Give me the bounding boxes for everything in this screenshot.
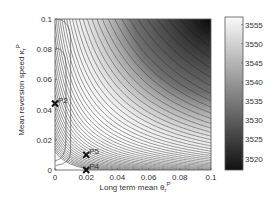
y-tick-label: 0.04 (36, 106, 52, 115)
y-tick-label: 0.08 (36, 45, 52, 54)
colorbar-tick-label: 3530 (245, 116, 263, 125)
colorbar-tick-label: 3545 (245, 59, 263, 68)
svg-text:P2: P2 (58, 96, 68, 105)
x-axis-label: Long term mean θrP (60, 181, 210, 193)
x-tick-label: 0 (53, 173, 58, 182)
colorbar-ticks: 35203525353035353540354535503555 (241, 21, 263, 164)
figure: 00.020.040.060.080.1 00.020.040.060.080.… (0, 0, 279, 207)
colorbar (225, 17, 243, 170)
svg-text:P5: P5 (89, 147, 99, 156)
y-axis-label: Mean reversion speed κrP (15, 15, 27, 165)
y-tick-label: 0.1 (41, 15, 53, 24)
colorbar-tick-label: 3550 (245, 40, 263, 49)
y-tick-label: 0 (48, 166, 53, 175)
svg-text:P4: P4 (89, 162, 99, 171)
y-axis-ticks: 00.020.040.060.080.1 (36, 15, 57, 175)
colorbar-tick-label: 3525 (245, 135, 263, 144)
colorbar-tick-label: 3555 (245, 21, 263, 30)
colorbar-tick-label: 3535 (245, 97, 263, 106)
contour-plot: 00.020.040.060.080.1 00.020.040.060.080.… (0, 0, 279, 207)
colorbar-tick-label: 3520 (245, 155, 263, 164)
y-tick-label: 0.02 (36, 136, 52, 145)
colorbar-tick-label: 3540 (245, 78, 263, 87)
y-tick-label: 0.06 (36, 75, 52, 84)
